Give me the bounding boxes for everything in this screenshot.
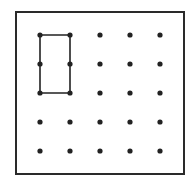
peg-dot [37, 119, 42, 124]
peg-dot [127, 90, 132, 95]
peg-dot [97, 90, 102, 95]
peg-dot [37, 32, 42, 37]
peg-dot [97, 32, 102, 37]
peg-dot [37, 148, 42, 153]
peg-dot [67, 32, 72, 37]
peg-dot [37, 61, 42, 66]
peg-dot [157, 61, 162, 66]
peg-dot [127, 148, 132, 153]
rectangle-shape [40, 35, 70, 93]
peg-dot [67, 90, 72, 95]
peg-dot [97, 61, 102, 66]
peg-dot [37, 90, 42, 95]
peg-dot [157, 119, 162, 124]
peg-dot [67, 61, 72, 66]
peg-dot [97, 119, 102, 124]
peg-dot [97, 148, 102, 153]
peg-dot [67, 119, 72, 124]
peg-dot [127, 32, 132, 37]
peg-dot [127, 61, 132, 66]
peg-dot [157, 32, 162, 37]
peg-dot [127, 119, 132, 124]
peg-dot [157, 90, 162, 95]
geoboard-diagram [0, 0, 194, 182]
peg-dot [157, 148, 162, 153]
peg-dot [67, 148, 72, 153]
